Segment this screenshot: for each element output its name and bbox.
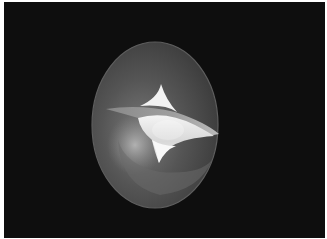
specular-highlight (152, 120, 184, 140)
scene-canvas (0, 0, 327, 239)
